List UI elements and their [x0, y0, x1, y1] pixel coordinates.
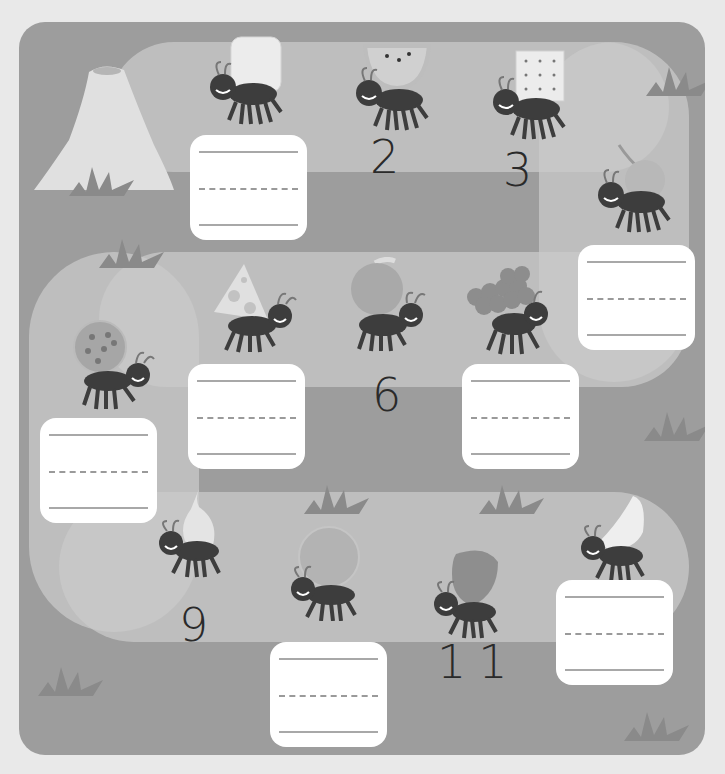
- ant-pear-icon: [137, 485, 233, 581]
- number-6: 6: [372, 372, 401, 418]
- writing-box-10[interactable]: [270, 642, 387, 747]
- ant-watermelon-icon: [337, 38, 433, 134]
- solid-guideline: [565, 596, 663, 598]
- ant-strawberry-icon: [416, 544, 512, 640]
- writing-box-4[interactable]: [578, 245, 695, 350]
- solid-guideline: [197, 380, 295, 382]
- solid-guideline: [471, 380, 569, 382]
- dashed-guideline: [471, 417, 569, 419]
- number-2: 2: [370, 134, 399, 180]
- ant-cracker-icon: [474, 47, 570, 143]
- solid-guideline: [199, 151, 297, 153]
- game-board: 2 3: [19, 22, 705, 755]
- number-9: 9: [179, 602, 208, 648]
- solid-guideline: [49, 507, 147, 509]
- writing-box-1[interactable]: [190, 135, 307, 240]
- solid-guideline: [279, 731, 377, 733]
- grass-icon: [33, 662, 108, 698]
- grass-icon: [299, 480, 374, 516]
- grass-icon: [641, 62, 705, 98]
- solid-guideline: [197, 453, 295, 455]
- dashed-guideline: [587, 298, 685, 300]
- dashed-guideline: [49, 471, 147, 473]
- grass-icon: [639, 407, 705, 443]
- ant-cookie-icon: [64, 317, 160, 413]
- ant-orange-icon: [271, 525, 367, 621]
- dashed-guideline: [199, 188, 297, 190]
- ant-apple-icon: [335, 257, 431, 353]
- ant-bread-icon: [191, 32, 287, 128]
- dashed-guideline: [565, 633, 663, 635]
- solid-guideline: [49, 434, 147, 436]
- solid-guideline: [587, 334, 685, 336]
- ant-cherry-icon: [579, 140, 675, 236]
- solid-guideline: [279, 658, 377, 660]
- solid-guideline: [565, 669, 663, 671]
- grass-icon: [474, 480, 549, 516]
- solid-guideline: [471, 453, 569, 455]
- grass-icon: [619, 707, 694, 743]
- writing-box-12[interactable]: [556, 580, 673, 685]
- ant-cheese-icon: [204, 260, 300, 356]
- number-3: 3: [503, 147, 532, 193]
- ant-banana-icon: [559, 492, 655, 588]
- dashed-guideline: [197, 417, 295, 419]
- solid-guideline: [199, 224, 297, 226]
- solid-guideline: [587, 261, 685, 263]
- grass-icon: [94, 234, 169, 270]
- grass-icon: [64, 162, 139, 198]
- number-11: 11: [437, 639, 520, 685]
- ant-grapes-icon: [456, 262, 552, 358]
- dashed-guideline: [279, 695, 377, 697]
- writing-box-5[interactable]: [462, 364, 579, 469]
- writing-box-7[interactable]: [188, 364, 305, 469]
